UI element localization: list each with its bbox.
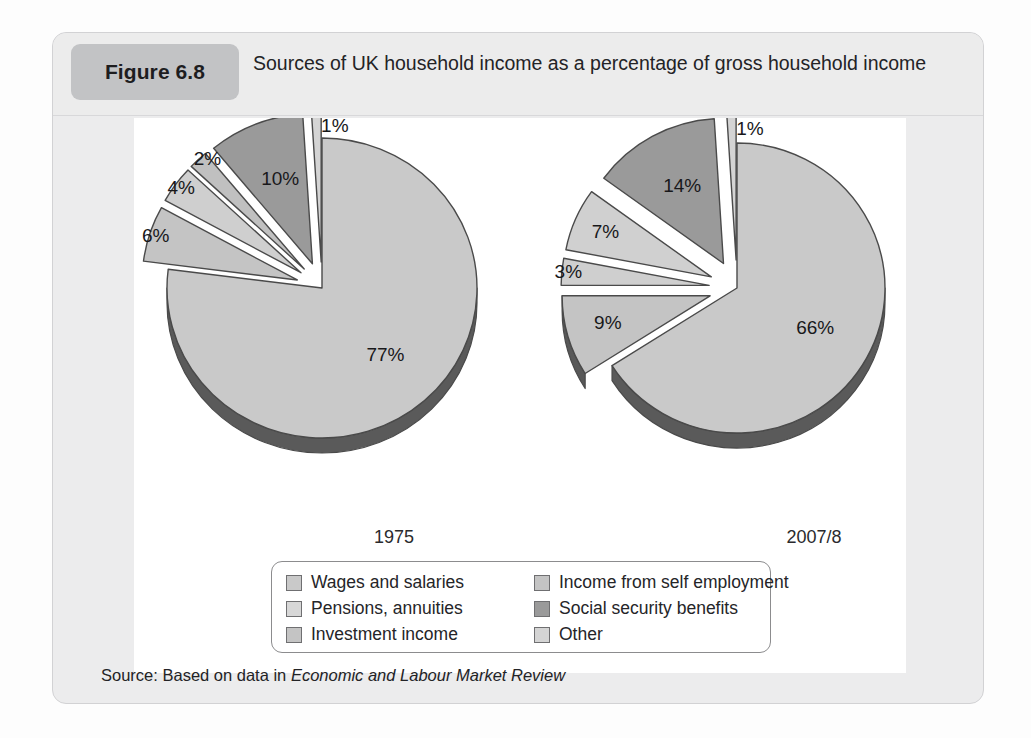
pie-2007-8 [561, 118, 885, 448]
legend-item: Wages and salaries [286, 570, 464, 595]
legend-item: Pensions, annuities [286, 596, 464, 621]
legend-item-label: Wages and salaries [311, 572, 464, 593]
figure-card: Figure 6.8 Sources of UK household incom… [52, 32, 984, 704]
figure-title-box: Sources of UK household income as a perc… [253, 44, 969, 102]
legend-item-label: Income from self employment [559, 572, 789, 593]
scanned-page: Figure 6.8 Sources of UK household incom… [0, 0, 1031, 738]
legend-item: Social security benefits [534, 596, 789, 621]
pie-charts-svg [134, 118, 906, 558]
legend-swatch-self-employment [534, 575, 550, 591]
pie-year-label-2007-8: 2007/8 [749, 527, 879, 548]
pie-year-label-1975: 1975 [334, 527, 454, 548]
figure-title-text: Sources of UK household income as a perc… [253, 50, 926, 76]
legend-column-right: Income from self employmentSocial securi… [534, 570, 789, 648]
figure-number-badge: Figure 6.8 [71, 44, 239, 100]
figure-number-label: Figure 6.8 [105, 60, 205, 84]
legend-swatch-other [534, 627, 550, 643]
legend-item-label: Investment income [311, 624, 458, 645]
figure-source: Source: Based on data in Economic and La… [101, 666, 565, 685]
legend-column-left: Wages and salariesPensions, annuitiesInv… [286, 570, 464, 648]
legend-swatch-investment [286, 627, 302, 643]
pie-slice [727, 118, 736, 260]
source-publication: Economic and Labour Market Review [291, 666, 565, 684]
legend-swatch-social-security [534, 601, 550, 617]
legend-item: Income from self employment [534, 570, 789, 595]
pie-1975 [143, 118, 477, 453]
pie-slice [311, 118, 321, 262]
legend-item: Other [534, 622, 789, 647]
chart-legend: Wages and salariesPensions, annuitiesInv… [271, 561, 771, 653]
legend-swatch-wages [286, 575, 302, 591]
legend-item: Investment income [286, 622, 464, 647]
legend-item-label: Social security benefits [559, 598, 738, 619]
source-prefix: Source: Based on data in [101, 666, 291, 684]
legend-swatch-pensions [286, 601, 302, 617]
figure-header: Figure 6.8 Sources of UK household incom… [53, 33, 983, 116]
legend-item-label: Pensions, annuities [311, 598, 463, 619]
chart-plot-area: 1975 2007/8 77%6%4%2%10%1%66%9%3%7%14%1%… [134, 118, 906, 673]
legend-item-label: Other [559, 624, 603, 645]
